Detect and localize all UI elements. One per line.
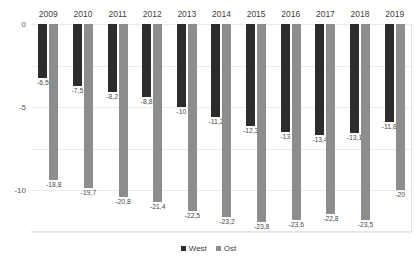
bar-value-label: -13 (280, 133, 290, 140)
bar-west-2012[interactable]: -8,8 (142, 24, 151, 97)
bar-ost-2014[interactable]: -23,2 (222, 24, 231, 217)
bar-west-2016[interactable]: -13 (281, 24, 290, 132)
bar-value-label: -13,1 (347, 134, 363, 141)
bar-value-label: -13,4 (312, 136, 328, 143)
bar-group: 2013-10-22,5 (170, 24, 205, 232)
clipped-title (0, 0, 417, 9)
bar-value-label: -23,6 (289, 221, 305, 228)
bar-value-label: -10 (176, 108, 186, 115)
bar-ost-2010[interactable]: -19,7 (84, 24, 93, 188)
bar-value-label: -11,2 (208, 118, 223, 125)
bar-value-label: -20 (395, 191, 405, 198)
x-axis-tick-label: 2015 (247, 9, 266, 19)
bar-group-container: 2009-6,5-18,82010-7,5-19,72011-8,2-20,82… (31, 24, 412, 232)
legend-item-ost[interactable]: Ost (216, 244, 236, 253)
x-axis-tick-label: 2012 (143, 9, 162, 19)
legend-swatch-ost-icon (216, 246, 221, 251)
bar-pair: -7,5-19,7 (72, 24, 94, 232)
bar-value-label: -23,8 (254, 223, 270, 230)
bar-group: 2017-13,4-22,8 (308, 24, 343, 232)
bar-ost-2009[interactable]: -18,8 (49, 24, 58, 180)
bar-pair: -11,2-23,2 (210, 24, 232, 232)
bar-pair: -8,8-21,4 (141, 24, 163, 232)
bar-pair: -10-22,5 (176, 24, 198, 232)
bar-value-label: -11,8 (382, 123, 397, 130)
bar-pair: -13-23,6 (280, 24, 302, 232)
y-axis-tick-label: -5 (19, 103, 31, 112)
bar-ost-2017[interactable]: -22,8 (326, 24, 335, 214)
bar-value-label: -23,5 (358, 221, 374, 228)
chart-container: 0-5-10-15-20-25 2009-6,5-18,82010-7,5-19… (0, 0, 417, 268)
bar-value-label: -18,8 (46, 181, 62, 188)
bar-value-label: -23,2 (219, 218, 235, 225)
bar-pair: -8,2-20,8 (107, 24, 129, 232)
bar-ost-2012[interactable]: -21,4 (153, 24, 162, 202)
bar-group: 2018-13,1-23,5 (343, 24, 378, 232)
x-axis-tick-label: 2017 (316, 9, 335, 19)
legend-label-ost: Ost (224, 244, 236, 253)
bar-pair: -12,3-23,8 (245, 24, 267, 232)
bar-pair: -6,5-18,8 (37, 24, 59, 232)
bar-group: 2014-11,2-23,2 (204, 24, 239, 232)
bar-value-label: -7,5 (72, 87, 84, 94)
x-axis-tick-label: 2011 (108, 9, 126, 19)
chart-legend: West Ost (0, 244, 417, 253)
bar-ost-2018[interactable]: -23,5 (361, 24, 370, 220)
bar-ost-2015[interactable]: -23,8 (257, 24, 266, 222)
bar-value-label: -22,5 (185, 212, 201, 219)
bar-ost-2019[interactable]: -20 (396, 24, 405, 190)
x-axis-tick-label: 2018 (351, 9, 370, 19)
bar-pair: -11,8-20 (384, 24, 406, 232)
y-axis-tick-label: -10 (14, 186, 31, 195)
bar-value-label: -8,8 (141, 98, 153, 105)
bar-west-2014[interactable]: -11,2 (211, 24, 220, 117)
bar-value-label: -19,7 (81, 189, 97, 196)
legend-swatch-west-icon (181, 246, 186, 251)
x-axis-tick-label: 2019 (385, 9, 404, 19)
bar-value-label: -20,8 (115, 198, 131, 205)
bar-group: 2015-12,3-23,8 (239, 24, 274, 232)
bar-west-2017[interactable]: -13,4 (315, 24, 324, 135)
legend-label-west: West (189, 244, 207, 253)
y-axis-tick-label: 0 (22, 20, 31, 29)
bar-group: 2010-7,5-19,7 (66, 24, 101, 232)
x-axis-tick-label: 2014 (212, 9, 231, 19)
bar-ost-2011[interactable]: -20,8 (119, 24, 128, 197)
bar-west-2018[interactable]: -13,1 (350, 24, 359, 133)
bar-group: 2012-8,8-21,4 (135, 24, 170, 232)
bar-value-label: -8,2 (106, 93, 118, 100)
bar-west-2009[interactable]: -6,5 (38, 24, 47, 78)
bar-group: 2019-11,8-20 (377, 24, 412, 232)
bar-group: 2011-8,2-20,8 (100, 24, 135, 232)
bar-value-label: -22,8 (323, 215, 339, 222)
bar-value-label: -6,5 (37, 79, 49, 86)
x-axis-tick-label: 2013 (177, 9, 196, 19)
bar-pair: -13,4-22,8 (314, 24, 336, 232)
bar-group: 2009-6,5-18,8 (31, 24, 66, 232)
bar-west-2015[interactable]: -12,3 (246, 24, 255, 126)
bar-west-2010[interactable]: -7,5 (73, 24, 82, 86)
legend-item-west[interactable]: West (181, 244, 207, 253)
bar-west-2013[interactable]: -10 (177, 24, 186, 107)
x-axis-tick-label: 2010 (73, 9, 92, 19)
x-axis-tick-label: 2009 (39, 9, 58, 19)
bar-west-2011[interactable]: -8,2 (108, 24, 117, 92)
gridline: -25 (31, 232, 411, 233)
bar-value-label: -21,4 (150, 203, 166, 210)
bar-pair: -13,1-23,5 (349, 24, 371, 232)
bar-ost-2016[interactable]: -23,6 (292, 24, 301, 220)
bar-group: 2016-13-23,6 (273, 24, 308, 232)
bar-ost-2013[interactable]: -22,5 (188, 24, 197, 211)
bar-west-2019[interactable]: -11,8 (385, 24, 394, 122)
x-axis-tick-label: 2016 (281, 9, 300, 19)
bar-value-label: -12,3 (243, 127, 259, 134)
